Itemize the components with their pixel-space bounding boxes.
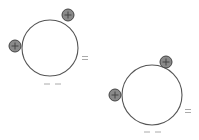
sphere-2 — [109, 56, 191, 132]
sphere-outline — [22, 20, 78, 76]
negative-charge-marks-right — [185, 110, 191, 113]
sphere-1 — [9, 9, 88, 84]
positive-charge-icon — [109, 89, 121, 101]
sphere-outline — [122, 65, 182, 125]
positive-charge-icon — [9, 40, 21, 52]
charge-diagram — [0, 0, 199, 140]
positive-charge-icon — [160, 56, 172, 68]
positive-charge-icon — [62, 9, 74, 21]
negative-charge-marks-right — [82, 57, 88, 60]
